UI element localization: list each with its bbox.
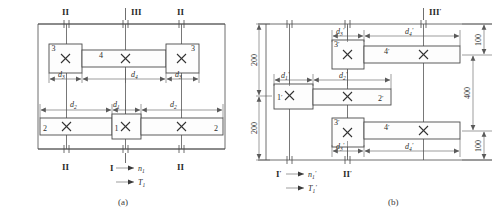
- dim-d1-label: d1: [113, 100, 120, 110]
- gear-2-right-label: 2: [214, 124, 218, 133]
- label-shaft-II-prime-bottom: II′: [343, 169, 352, 179]
- label-shaft-II-bottom-left: II: [62, 162, 70, 172]
- gear-3-left-label: 3: [52, 44, 56, 53]
- dim-100-lower-label: 100: [474, 140, 483, 152]
- gear-4-prime-bottom-body: [364, 122, 460, 139]
- label-shaft-I-input-a: I: [110, 163, 114, 173]
- dim-400-middle-label: 400: [463, 87, 472, 99]
- dim-200-upper-label: 200: [250, 54, 259, 66]
- label-n1-prime-b: n1′: [308, 169, 317, 180]
- label-shaft-III-top: III: [131, 7, 142, 17]
- label-shaft-II-top-left: II: [62, 7, 70, 17]
- gear-3-right-label: 3: [191, 44, 195, 53]
- label-shaft-I-prime-input: I′: [276, 169, 282, 179]
- label-shaft-II-bottom-right: II: [177, 162, 185, 172]
- caption-b: (b): [388, 197, 399, 207]
- gear-4-prime-top-body: [364, 46, 460, 63]
- diagram-b: III′ 3′ 4′ d3′ d4′: [250, 7, 492, 207]
- diagram-a: II III II II II 3 4 3: [38, 7, 225, 207]
- dim-d3-prime-top-label: d3′: [336, 26, 345, 37]
- gear-2-left-body: [40, 118, 112, 135]
- label-n1-a: n1: [138, 164, 145, 174]
- label-shaft-II-top-right: II: [177, 7, 185, 17]
- dim-d2-right-label: d2: [170, 100, 177, 110]
- vertical-dimension-left-b: [256, 24, 272, 160]
- label-shaft-III-prime: III′: [429, 7, 442, 17]
- gear-2-left-label: 2: [43, 124, 47, 133]
- label-T1-a: T1: [138, 178, 145, 188]
- gear-4-label: 4: [99, 51, 103, 60]
- label-T1-prime-b: T1′: [308, 183, 317, 194]
- dim-d4-prime-bottom-label: d4′: [405, 141, 414, 152]
- dim-d4-prime-top-label: d4′: [405, 26, 414, 37]
- caption-a: (a): [118, 197, 128, 207]
- dim-100-upper-label: 100: [474, 34, 483, 46]
- dim-d2-prime-label: d2′: [339, 70, 348, 81]
- dim-d1-prime-label: d1′: [281, 70, 290, 81]
- dim-200-lower-label: 200: [250, 122, 259, 134]
- figure-root: II III II II II 3 4 3: [0, 0, 499, 218]
- gear-4-body: [82, 50, 166, 67]
- gear-1-label: 1: [115, 124, 119, 133]
- dim-d4-label: d4: [131, 70, 138, 80]
- dim-d2-left-label: d2: [70, 100, 77, 110]
